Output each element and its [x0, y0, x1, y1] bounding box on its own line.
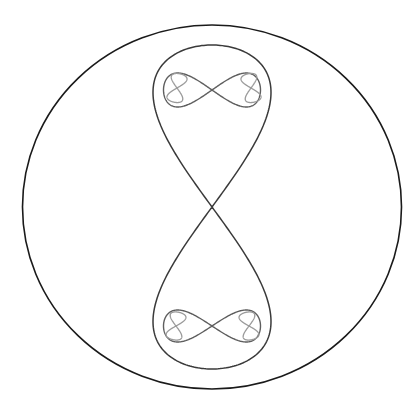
level-2-horizontal-eight-bottom [164, 310, 261, 342]
level-3-vertical-eight-bottom-left [166, 312, 186, 340]
nested-lemniscate-diagram [0, 0, 420, 406]
lemniscate-curves [153, 45, 271, 369]
level-3-vertical-eight-top-left [167, 73, 187, 102]
level-3-vertical-eight-bottom-right [239, 312, 259, 340]
level-3-vertical-eight-top-right [241, 73, 261, 102]
